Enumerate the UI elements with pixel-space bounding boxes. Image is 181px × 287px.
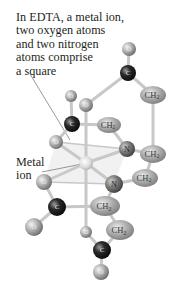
svg-text:O: O — [126, 45, 131, 53]
svg-text:O: O — [98, 268, 103, 276]
svg-text:O: O — [31, 223, 36, 231]
svg-text:C: C — [55, 203, 60, 211]
svg-text:O: O — [68, 92, 73, 100]
svg-text:N: N — [124, 145, 130, 154]
edta-molecule-diagram: O C CH2 O O C CH2 O N CH2 O CH2 N C CH2 … — [0, 0, 181, 287]
svg-text:O: O — [83, 228, 88, 236]
svg-text:N: N — [111, 180, 117, 189]
svg-text:C: C — [126, 69, 131, 77]
svg-text:C: C — [100, 246, 105, 254]
svg-text:O: O — [41, 178, 46, 186]
caption-pointer-line — [30, 74, 70, 140]
svg-text:O: O — [83, 101, 88, 109]
svg-text:C: C — [70, 120, 75, 128]
svg-text:O: O — [53, 138, 58, 146]
metal-ion — [79, 156, 93, 170]
